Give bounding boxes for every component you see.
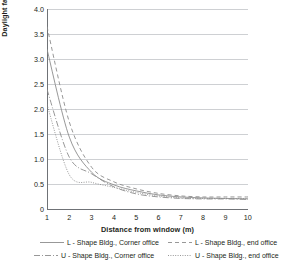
y-tick-label: 0.5 xyxy=(24,180,44,189)
daylight-factor-chart: Daylight factor (%) 4.0 3.5 3.0 2.5 2.0 … xyxy=(0,0,286,261)
y-tick-label: 1.0 xyxy=(24,155,44,164)
legend-item-u-corner: U - Shape Bldg., Corner office xyxy=(34,249,154,261)
legend-line-dashed-icon xyxy=(168,237,192,247)
y-tick-label: 1.5 xyxy=(24,130,44,139)
legend-label: U - Shape Bldg., Corner office xyxy=(61,252,154,259)
y-axis-title: Daylight factor (%) xyxy=(0,0,12,64)
series-line xyxy=(47,89,248,199)
legend-line-dotted-icon xyxy=(168,250,192,260)
y-tick-label: 3.5 xyxy=(24,30,44,39)
x-axis-title: Distance from window (m) xyxy=(47,225,248,234)
x-tick-label: 7 xyxy=(172,213,190,222)
x-tick-label: 3 xyxy=(83,213,101,222)
legend-item-l-corner: L - Shape Bldg., Corner office xyxy=(40,236,159,248)
y-tick-label: 4.0 xyxy=(24,5,44,14)
x-tick-label: 8 xyxy=(194,213,212,222)
plot-area xyxy=(47,9,248,210)
x-tick-label: 1 xyxy=(38,213,56,222)
legend-item-u-end: U - Shape Bldg., end office xyxy=(168,249,279,261)
legend-label: L - Shape Bldg., end office xyxy=(195,239,277,246)
x-axis-tick-labels: 1 2 3 4 5 6 7 8 9 10 xyxy=(47,213,257,225)
legend-line-dashdot-icon xyxy=(34,250,58,260)
series-line xyxy=(47,49,248,199)
y-tick-label: 2.5 xyxy=(24,80,44,89)
legend-line-solid-icon xyxy=(40,237,64,247)
legend-item-l-end: L - Shape Bldg., end office xyxy=(168,236,277,248)
series-line xyxy=(47,27,248,197)
x-tick-label: 6 xyxy=(150,213,168,222)
gridlines xyxy=(47,10,248,185)
y-tick-label: 3.0 xyxy=(24,55,44,64)
x-tick-label: 5 xyxy=(127,213,145,222)
legend-label: L - Shape Bldg., Corner office xyxy=(67,239,159,246)
x-tick-label: 10 xyxy=(239,213,257,222)
x-tick-label: 4 xyxy=(105,213,123,222)
y-tick-label: 2.0 xyxy=(24,105,44,114)
legend-label: U - Shape Bldg., end office xyxy=(195,252,279,259)
x-tick-label: 2 xyxy=(60,213,78,222)
x-tick-label: 9 xyxy=(216,213,234,222)
chart-legend: L - Shape Bldg., Corner office L - Shape… xyxy=(34,236,284,261)
